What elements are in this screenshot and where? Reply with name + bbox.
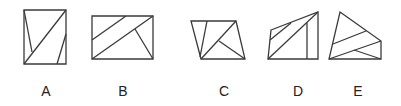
option-b-shape[interactable] — [92, 16, 153, 59]
option-a-shape[interactable] — [24, 10, 66, 64]
option-a-label: A — [41, 83, 51, 99]
option-e-shape[interactable] — [329, 12, 381, 59]
option-b-label: B — [118, 83, 127, 99]
figure-canvas: A B C D E — [0, 0, 401, 106]
option-c-shape[interactable] — [191, 21, 245, 59]
option-c-label: C — [219, 83, 229, 99]
option-a-line-1 — [24, 10, 32, 52]
option-a-line-3 — [57, 34, 66, 64]
option-d-shape[interactable] — [268, 12, 318, 59]
option-b-line-1 — [92, 16, 126, 40]
option-b-line-3 — [135, 29, 153, 59]
option-d-label: D — [293, 83, 303, 99]
option-c-line-1 — [200, 21, 207, 57]
option-b-line-2 — [92, 16, 153, 59]
option-e-line-3 — [354, 50, 381, 59]
option-e-line-1 — [333, 31, 366, 44]
option-e-label: E — [353, 83, 362, 99]
option-d-line-1 — [270, 23, 291, 40]
